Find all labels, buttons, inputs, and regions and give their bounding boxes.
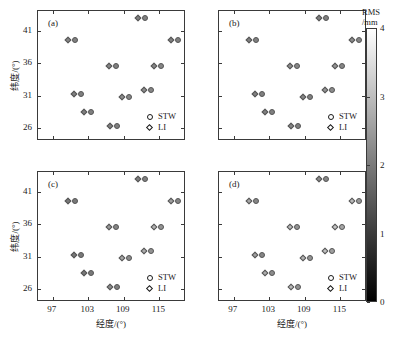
y-tick-mark: [38, 289, 41, 290]
data-point-stw: [113, 224, 119, 230]
x-tick-mark: [305, 172, 306, 175]
legend-item: STW: [145, 111, 176, 122]
x-tick-mark: [340, 172, 341, 175]
data-point-li: [118, 254, 125, 261]
plot-area: (d)STWLI: [219, 172, 365, 300]
panel-a: (a)STWLI: [37, 10, 185, 140]
circle-symbol-slot: [326, 114, 335, 120]
x-tick-mark: [305, 136, 306, 139]
x-tick-mark: [305, 11, 306, 14]
y-tick-mark: [181, 257, 184, 258]
panel-label: (d): [229, 179, 240, 189]
circle-icon: [328, 114, 334, 120]
data-point-stw: [339, 63, 345, 69]
data-point-stw: [88, 109, 94, 115]
data-point-li: [288, 284, 295, 291]
data-point-li: [321, 247, 328, 254]
data-point-stw: [253, 37, 259, 43]
data-point-li: [167, 198, 174, 205]
legend-item: LI: [326, 283, 357, 294]
y-tick-mark: [181, 63, 184, 64]
data-point-li: [331, 62, 338, 69]
legend: STWLI: [326, 272, 357, 294]
data-point-li: [150, 223, 157, 230]
diamond-icon: [327, 285, 334, 292]
y-tick-label: 26: [11, 122, 32, 132]
x-tick-mark: [340, 297, 341, 300]
x-tick-mark: [88, 136, 89, 139]
data-point-li: [105, 63, 112, 70]
diamond-icon: [146, 124, 153, 131]
data-point-stw: [126, 255, 132, 261]
diamond-symbol-slot: [145, 286, 154, 291]
y-tick-mark: [219, 257, 222, 258]
diamond-symbol-slot: [326, 286, 335, 291]
data-point-stw: [148, 248, 154, 254]
legend-label: STW: [339, 272, 357, 283]
data-point-stw: [295, 284, 301, 290]
y-tick-mark: [362, 257, 365, 258]
y-tick-mark: [38, 96, 41, 97]
data-point-stw: [253, 198, 259, 204]
data-point-li: [140, 247, 147, 254]
y-tick-mark: [362, 96, 365, 97]
y-tick-mark: [181, 224, 184, 225]
x-tick-mark: [53, 172, 54, 175]
y-tick-mark: [219, 63, 222, 64]
data-point-li: [140, 86, 147, 93]
data-point-stw: [329, 248, 335, 254]
y-tick-mark: [362, 192, 365, 193]
x-tick-label: 97: [47, 304, 56, 314]
colorbar-gradient: [366, 28, 377, 302]
x-tick-mark: [159, 11, 160, 14]
legend-item: LI: [326, 122, 357, 133]
data-point-stw: [259, 91, 265, 97]
colorbar-tick-mark: [367, 28, 370, 29]
y-tick-mark: [38, 31, 41, 32]
data-point-stw: [323, 15, 329, 21]
y-tick-mark: [181, 289, 184, 290]
x-tick-mark: [124, 172, 125, 175]
y-tick-mark: [38, 63, 41, 64]
colorbar-tick-label: 1: [380, 229, 385, 239]
colorbar-tick-label: 2: [380, 160, 385, 170]
y-tick-mark: [362, 63, 365, 64]
x-axis-title: 经度/(°): [277, 317, 307, 330]
data-point-li: [252, 91, 259, 98]
legend-label: STW: [158, 111, 176, 122]
data-point-stw: [307, 255, 313, 261]
legend-item: STW: [326, 272, 357, 283]
circle-icon: [328, 275, 334, 281]
y-tick-label: 41: [11, 186, 32, 196]
circle-symbol-slot: [145, 114, 154, 120]
data-point-stw: [295, 123, 301, 129]
y-tick-label: 26: [11, 283, 32, 293]
data-point-li: [288, 123, 295, 130]
y-tick-label: 36: [11, 218, 32, 228]
x-tick-mark: [124, 11, 125, 14]
x-tick-mark: [159, 136, 160, 139]
data-point-li: [71, 252, 78, 259]
x-tick-mark: [159, 297, 160, 300]
colorbar-tick-label: 4: [380, 23, 385, 33]
data-point-li: [315, 14, 322, 21]
legend: STWLI: [145, 272, 176, 294]
x-tick-label: 103: [262, 304, 276, 314]
y-tick-mark: [38, 224, 41, 225]
x-tick-label: 97: [228, 304, 237, 314]
x-tick-label: 109: [116, 304, 130, 314]
x-tick-mark: [305, 297, 306, 300]
y-tick-mark: [219, 128, 222, 129]
data-point-li: [315, 175, 322, 182]
x-tick-mark: [53, 11, 54, 14]
colorbar-tick-mark: [367, 165, 370, 166]
x-tick-mark: [269, 136, 270, 139]
panel-label: (c): [48, 179, 58, 189]
circle-icon: [147, 114, 153, 120]
data-point-li: [80, 108, 87, 115]
colorbar-tick-label: 3: [380, 92, 385, 102]
y-tick-mark: [219, 289, 222, 290]
x-tick-label: 109: [297, 304, 311, 314]
x-tick-label: 103: [81, 304, 95, 314]
data-point-li: [321, 86, 328, 93]
